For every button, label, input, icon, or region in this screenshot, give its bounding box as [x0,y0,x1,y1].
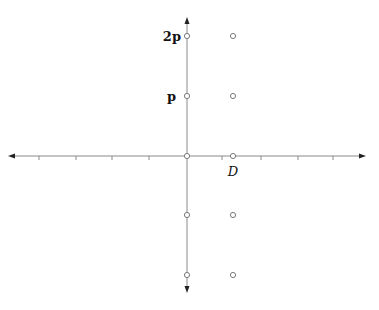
lattice-point [184,272,189,277]
label-p: p [167,89,176,104]
lattice-point [184,93,189,98]
lattice-point [230,33,235,38]
x-axis-right-arrow-icon [359,154,366,159]
lattice-point [184,33,189,38]
lattice-point [230,212,235,217]
lattice-point [184,212,189,217]
lattice-point [184,153,189,158]
y-axis-down-arrow-icon [185,286,190,293]
label-2p: 2p [163,29,181,44]
lattice-diagram: 2p p D [0,0,379,310]
lattice-point [230,272,235,277]
x-axis-left-arrow-icon [8,154,15,159]
label-d: D [227,164,239,179]
lattice-point [230,93,235,98]
y-axis-up-arrow-icon [185,17,190,24]
lattice-point [230,153,235,158]
